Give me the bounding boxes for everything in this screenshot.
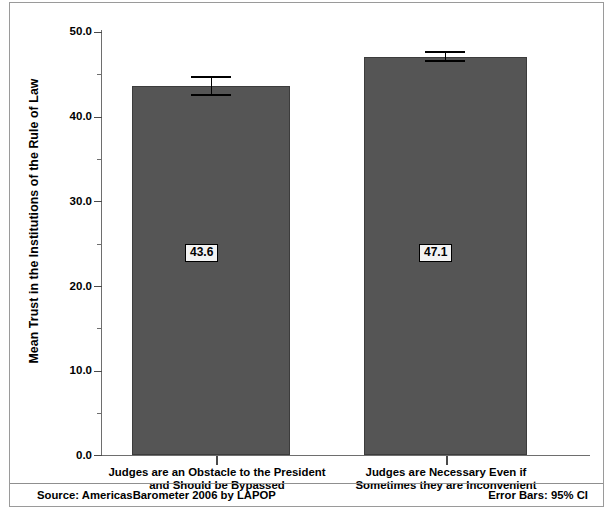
y-tick-label-40: 40.0	[48, 111, 92, 123]
y-tick-label-30: 30.0	[48, 196, 92, 208]
y-tick-major-30	[94, 201, 102, 202]
x-axis-label-judges-necessary-line1: Judges are Necessary Even if	[336, 466, 556, 479]
y-tick-minor-25	[97, 244, 102, 245]
y-tick-major-0	[94, 455, 102, 456]
y-tick-major-40	[94, 117, 102, 118]
y-tick-major-50	[94, 32, 102, 33]
y-tick-minor-15	[97, 328, 102, 329]
bar-value-label-1: 43.6	[185, 244, 218, 262]
error-bar-cap-lower-2	[425, 60, 465, 62]
y-tick-label-50: 50.0	[48, 26, 92, 38]
x-tick-category-1	[216, 456, 218, 465]
y-tick-major-20	[94, 286, 102, 287]
source-note: Source: AmericasBarometer 2006 by LAPOP	[37, 489, 276, 501]
error-bars-note: Error Bars: 95% CI	[488, 489, 588, 501]
error-bar-cap-upper-1	[191, 76, 231, 78]
error-bar-cap-lower-1	[191, 94, 231, 96]
y-tick-minor-5	[97, 413, 102, 414]
y-tick-major-10	[94, 371, 102, 372]
bar-value-label-2: 47.1	[419, 244, 452, 262]
y-tick-minor-45	[97, 74, 102, 75]
figure-caption	[52, 518, 592, 532]
x-axis-line	[101, 455, 590, 456]
y-tick-label-10: 10.0	[48, 365, 92, 377]
y-axis-tick-labels: 50.0 40.0 30.0 20.0 10.0 0.0	[42, 0, 92, 505]
y-tick-label-0: 0.0	[48, 450, 92, 462]
bar-judges-obstacle[interactable]	[132, 86, 290, 455]
y-tick-label-20: 20.0	[48, 281, 92, 293]
footer-divider	[10, 483, 603, 484]
x-axis-label-judges-obstacle-line1: Judges are an Obstacle to the President	[86, 466, 348, 479]
figure-container: Mean Trust in the Institutions of the Ru…	[0, 0, 612, 532]
error-bar-cap-upper-2	[425, 51, 465, 53]
y-axis-line	[101, 30, 102, 456]
x-tick-category-2	[446, 456, 448, 465]
y-axis-title: Mean Trust in the Institutions of the Ru…	[27, 11, 41, 431]
y-tick-minor-35	[97, 159, 102, 160]
